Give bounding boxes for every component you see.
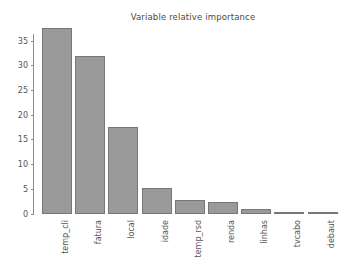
x-tick-label-fatura: fatura [94,220,103,244]
x-tick-label-debaut: debaut [327,220,336,248]
x-tick-label-temp_cli: temp_cli [61,220,70,254]
y-tick-label: 25 [18,85,28,96]
x-tick-label-idade: idade [161,220,170,242]
bar-idade[interactable] [142,188,172,214]
chart-title: Variable relative importance [0,12,350,22]
x-tick-label-local: local [127,220,136,239]
bar-fatura[interactable] [75,56,105,214]
y-tick-label: 5 [23,184,28,195]
chart-figure: Variable relative importance 05101520253… [0,0,350,278]
y-tick-label: 0 [23,209,28,220]
y-tick-label: 10 [18,159,28,170]
x-tick-label-tvcabo: tvcabo [293,220,302,247]
y-tick-label: 35 [18,36,28,47]
y-axis-ticks: 05101520253035 [0,0,34,278]
x-tick-label-temp_rsd: temp_rsd [194,220,203,257]
y-tick-label: 15 [18,134,28,145]
x-tick-label-linhas: linhas [260,220,269,244]
x-tick-label-renda: renda [227,220,236,243]
plot-area [33,28,343,214]
bar-temp_cli[interactable] [42,28,72,214]
bar-renda[interactable] [208,202,238,214]
y-tick-label: 20 [18,110,28,121]
bar-temp_rsd[interactable] [175,200,205,214]
bar-local[interactable] [108,127,138,214]
x-axis-tick-labels: temp_clifaturalocalidadetemp_rsdrendalin… [33,214,343,278]
y-tick-label: 30 [18,60,28,71]
